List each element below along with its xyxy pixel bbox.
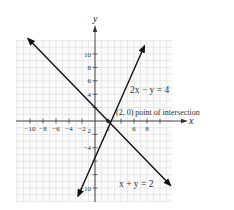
y-tick-label: 6 — [88, 77, 92, 85]
x-tick-label: −8 — [39, 125, 47, 133]
coordinate-plane: −10−8−6−4−226810864−4−102 y x 2x − y = 4… — [0, 0, 234, 210]
y-axis-arrow-icon — [93, 25, 97, 32]
x-tick-label: −6 — [52, 125, 60, 133]
y-axis-label: y — [92, 13, 98, 24]
intersection-point — [106, 119, 110, 123]
equation-label-x-plus-y: x + y = 2 — [119, 179, 154, 189]
intersection-annotation: (2, 0) point of intersection — [116, 108, 200, 117]
graph-figure: −10−8−6−4−226810864−4−102 y x 2x − y = 4… — [0, 0, 234, 210]
x-tick-label: 6 — [132, 125, 136, 133]
y-tick-label: 10 — [84, 51, 92, 59]
y-tick-label: 2 — [88, 127, 92, 135]
x-tick-label: −10 — [25, 125, 36, 133]
y-tick-label: −4 — [84, 144, 92, 152]
equation-label-2x-minus-y: 2x − y = 4 — [130, 85, 169, 95]
x-tick-label: −4 — [65, 125, 73, 133]
y-tick-label: 8 — [88, 64, 92, 72]
x-axis-arrow-icon — [181, 119, 188, 123]
y-tick-label: 4 — [88, 91, 92, 99]
x-tick-label: −2 — [78, 125, 86, 133]
x-tick-label: 8 — [145, 125, 149, 133]
